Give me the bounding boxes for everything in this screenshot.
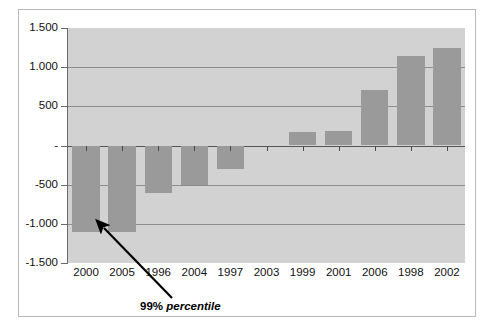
bar-2006 [361,90,388,146]
y-tick-mark [61,185,68,186]
bar-1996 [145,146,172,193]
x-axis-label-2001: 2001 [319,266,359,278]
bar-2002 [433,48,460,146]
x-tick-mark [303,146,304,151]
bar-2004 [181,146,208,186]
x-tick-mark [339,146,340,151]
x-tick-mark [267,146,268,151]
percentile-annotation: 99% percentile [140,300,221,312]
y-axis-label-wrap: 500 [0,100,58,111]
x-tick-mark [375,146,376,151]
x-tick-mark [230,146,231,151]
bar-1999 [289,132,316,145]
x-axis-label-1998: 1998 [391,266,431,278]
y-axis-label: 500 [2,100,58,111]
y-axis-label-wrap: -1.500 [0,257,58,268]
x-tick-mark [411,146,412,151]
x-axis-label-2005: 2005 [102,266,142,278]
x-axis-label-2002: 2002 [427,266,467,278]
x-tick-mark [122,146,123,151]
y-axis-label: -1.500 [2,257,58,268]
y-tick-mark [61,263,68,264]
x-tick-mark [194,146,195,151]
y-axis-label-wrap: 1.000 [0,61,58,72]
y-axis-label-wrap: -1.000 [0,218,58,229]
annotation-percentile-text: percentile [166,300,220,312]
x-tick-mark [158,146,159,151]
y-axis-label-wrap: -500 [0,179,58,190]
x-axis-label-2004: 2004 [174,266,214,278]
chart-figure: 1.5001.000500--500-1.000-1.500 200020051… [0,0,496,336]
y-tick-mark [61,146,68,147]
y-axis-label: - [2,140,58,151]
x-axis-label-1999: 1999 [283,266,323,278]
x-tick-mark [86,146,87,151]
annotation-percent-text: 99% [140,300,163,312]
x-axis-label-2000: 2000 [66,266,106,278]
bar-2000 [72,146,99,232]
x-axis-label-1996: 1996 [138,266,178,278]
y-tick-mark [61,28,68,29]
y-axis-label: 1.000 [2,61,58,72]
y-tick-mark [61,67,68,68]
x-tick-mark [447,146,448,151]
y-axis-label: -1.000 [2,218,58,229]
x-axis-label-2006: 2006 [355,266,395,278]
bar-2001 [325,131,352,145]
y-axis-label-wrap: - [0,140,58,151]
x-axis-label-1997: 1997 [210,266,250,278]
y-axis-label: -500 [2,179,58,190]
y-tick-mark [61,106,68,107]
y-axis-label-wrap: 1.500 [0,22,58,33]
x-axis-label-2003: 2003 [247,266,287,278]
y-tick-mark [61,224,68,225]
y-axis-label: 1.500 [2,22,58,33]
bar-2005 [108,146,135,232]
bar-1998 [397,56,424,145]
